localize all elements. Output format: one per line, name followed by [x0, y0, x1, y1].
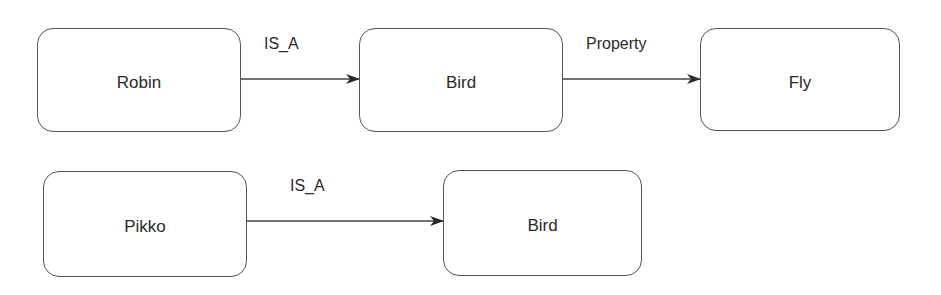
node-label: Bird — [446, 73, 476, 93]
node-bird: Bird — [359, 28, 563, 132]
edge-label-is-a-2: IS_A — [290, 177, 325, 195]
node-pikko: Pikko — [43, 171, 247, 277]
node-label: Robin — [117, 73, 161, 93]
node-label: Fly — [789, 73, 812, 93]
node-label: Bird — [527, 216, 557, 236]
node-robin: Robin — [37, 28, 241, 132]
node-fly: Fly — [700, 28, 900, 131]
node-label: Pikko — [124, 217, 166, 237]
node-bird-2: Bird — [443, 170, 642, 276]
edge-label-is-a: IS_A — [264, 35, 299, 53]
edge-label-property: Property — [586, 35, 646, 53]
